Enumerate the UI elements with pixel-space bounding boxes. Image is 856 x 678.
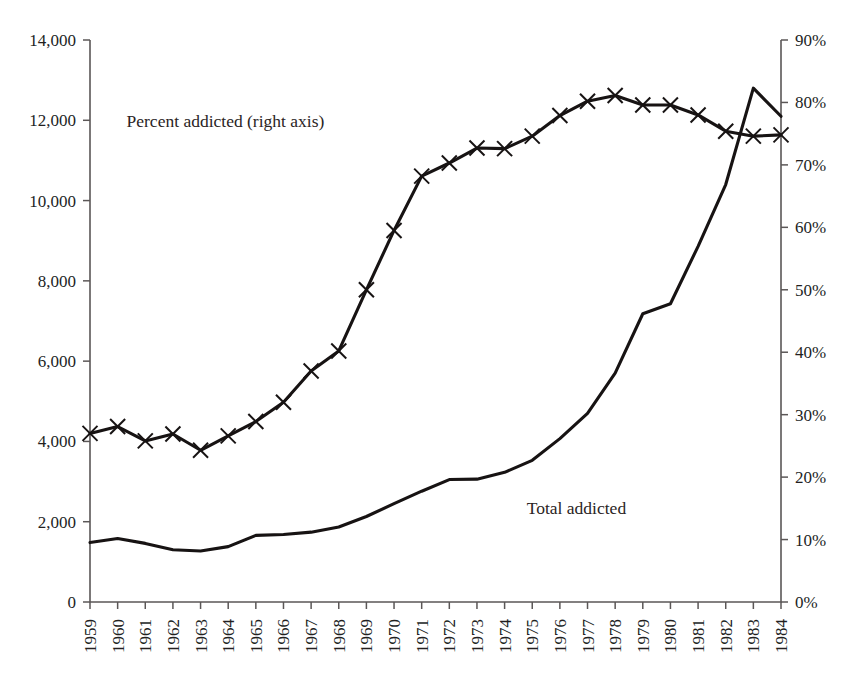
y-right-tick-label: 20% bbox=[795, 468, 826, 487]
y-right-tick-label: 90% bbox=[795, 31, 826, 50]
x-axis-year-label: 1976 bbox=[551, 619, 570, 653]
x-axis-year-label: 1964 bbox=[219, 619, 238, 654]
x-axis-year-label: 1970 bbox=[385, 619, 404, 653]
x-axis-year-label: 1963 bbox=[192, 619, 211, 653]
y-left-tick-label: 14,000 bbox=[29, 31, 76, 50]
y-right-tick-label: 30% bbox=[795, 406, 826, 425]
y-left-tick-label: 4,000 bbox=[38, 432, 76, 451]
chart-canvas: 02,0004,0006,0008,00010,00012,00014,000 … bbox=[0, 0, 856, 678]
x-axis-year-label: 1960 bbox=[109, 619, 128, 653]
x-axis-year-label: 1959 bbox=[81, 619, 100, 653]
x-axis-year-label: 1968 bbox=[330, 619, 349, 653]
x-axis-year-label: 1979 bbox=[634, 619, 653, 653]
x-axis-year-label: 1966 bbox=[274, 619, 293, 653]
x-axis-year-label: 1981 bbox=[689, 619, 708, 653]
y-left-tick-label: 8,000 bbox=[38, 272, 76, 291]
series-annotation-label: Percent addicted (right axis) bbox=[127, 111, 325, 131]
y-left-tick-label: 0 bbox=[68, 593, 77, 612]
x-axis-year-label: 1972 bbox=[440, 619, 459, 653]
series-annotation-label: Total addicted bbox=[527, 498, 627, 518]
y-right-tick-label: 40% bbox=[795, 343, 826, 362]
y-right-tick-label: 70% bbox=[795, 156, 826, 175]
y-right-tick-label: 80% bbox=[795, 93, 826, 112]
y-left-tick-label: 2,000 bbox=[38, 513, 76, 532]
x-axis-year-label: 1973 bbox=[468, 619, 487, 653]
y-right-tick-label: 50% bbox=[795, 281, 826, 300]
x-axis-year-label: 1978 bbox=[606, 619, 625, 653]
y-right-tick-label: 10% bbox=[795, 531, 826, 550]
x-axis-year-label: 1965 bbox=[247, 619, 266, 653]
x-axis-year-label: 1984 bbox=[772, 619, 791, 654]
x-axis-year-label: 1982 bbox=[717, 619, 736, 653]
y-right-tick-label: 0% bbox=[795, 593, 818, 612]
x-axis-year-label: 1974 bbox=[496, 619, 515, 654]
chart-figure: 02,0004,0006,0008,00010,00012,00014,000 … bbox=[0, 0, 856, 678]
x-axis-year-label: 1983 bbox=[744, 619, 763, 653]
x-axis-year-label: 1975 bbox=[523, 619, 542, 653]
x-axis-year-label: 1977 bbox=[579, 619, 598, 654]
x-axis-year-label: 1961 bbox=[136, 619, 155, 653]
x-axis-year-label: 1967 bbox=[302, 619, 321, 654]
y-left-tick-label: 12,000 bbox=[29, 111, 76, 130]
y-right-tick-label: 60% bbox=[795, 218, 826, 237]
x-axis-year-label: 1980 bbox=[661, 619, 680, 653]
x-axis-year-label: 1962 bbox=[164, 619, 183, 653]
y-left-tick-label: 10,000 bbox=[29, 192, 76, 211]
y-left-tick-label: 6,000 bbox=[38, 352, 76, 371]
chart-background bbox=[0, 0, 856, 678]
x-axis-year-label: 1969 bbox=[357, 619, 376, 653]
x-axis-year-label: 1971 bbox=[413, 619, 432, 653]
